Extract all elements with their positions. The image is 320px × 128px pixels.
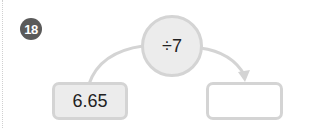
operator-to-output-arc	[200, 48, 245, 76]
input-to-operator-arc	[89, 46, 143, 84]
answer-box[interactable]	[206, 82, 283, 120]
operator-circle: ÷7	[141, 15, 203, 77]
arrowhead-icon	[238, 70, 250, 82]
input-value-box: 6.65	[52, 82, 128, 120]
